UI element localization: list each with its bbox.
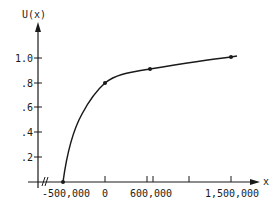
x-axis: x -500,000 0 600,000 1,500,000: [28, 176, 269, 199]
x-tick-1500k: 1,500,000: [205, 188, 259, 199]
data-point-1500k: [229, 55, 233, 59]
x-tick-0: 0: [102, 188, 108, 199]
data-point-neg500k: [61, 180, 65, 184]
y-axis-arrow-icon: [35, 22, 41, 32]
y-axis-label: U(x): [22, 9, 46, 20]
x-axis-arrow-icon: [250, 179, 260, 185]
utility-function-chart: U(x) 1.0 .8 .6 .4 .2 x: [0, 0, 279, 212]
y-axis: U(x) 1.0 .8 .6 .4 .2: [15, 9, 46, 188]
y-tick-0.2: .2: [21, 152, 33, 163]
data-point-600k: [148, 67, 152, 71]
y-tick-1.0: 1.0: [15, 53, 33, 64]
y-tick-0.6: .6: [21, 102, 33, 113]
y-tick-0.4: .4: [21, 127, 33, 138]
data-point-0: [103, 81, 107, 85]
x-tick-neg500k: -500,000: [42, 188, 90, 199]
y-tick-0.8: .8: [21, 78, 33, 89]
utility-curve: [61, 55, 237, 184]
x-axis-label: x: [263, 176, 269, 187]
x-tick-600k: 600,000: [130, 188, 172, 199]
